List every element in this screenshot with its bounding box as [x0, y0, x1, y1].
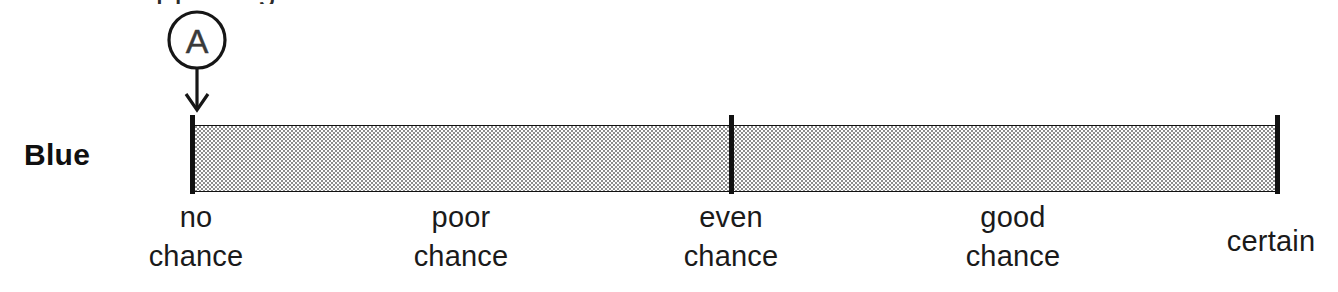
- axis-label-good-chance: good chance: [966, 198, 1061, 276]
- tick-even-chance: [729, 115, 734, 194]
- axis-label-line1: no: [149, 198, 244, 237]
- axis-label-certain: certain: [1227, 222, 1315, 261]
- circled-letter-marker-icon: A: [158, 4, 238, 119]
- axis-label-line2: chance: [149, 237, 244, 276]
- axis-label-no-chance: no chance: [149, 198, 244, 276]
- axis-label-line2: chance: [684, 237, 779, 276]
- axis-label-line2: chance: [966, 237, 1061, 276]
- axis-label-even-chance: even chance: [684, 198, 779, 276]
- row-label-blue: Blue: [24, 138, 90, 172]
- axis-label-line2: chance: [414, 237, 509, 276]
- marker-letter: A: [186, 22, 209, 60]
- tick-certain: [1275, 115, 1280, 194]
- axis-label-line1: certain: [1227, 222, 1315, 261]
- annotation-marker-a: A: [158, 4, 238, 119]
- probability-scale-figure: happening Blue A no chance poor chance e…: [0, 0, 1338, 292]
- axis-label-line1: even: [684, 198, 779, 237]
- axis-label-line1: poor: [414, 198, 509, 237]
- axis-label-line1: good: [966, 198, 1061, 237]
- probability-scale-bar: [190, 115, 1282, 197]
- tick-no-chance: [190, 115, 195, 194]
- axis-label-poor-chance: poor chance: [414, 198, 509, 276]
- bar-fill: [192, 125, 1278, 192]
